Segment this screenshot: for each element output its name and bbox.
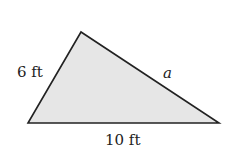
triangle-diagram: 6 ft a 10 ft [0, 0, 226, 159]
bottom-side-label: 10 ft [105, 131, 140, 149]
left-side-label: 6 ft [17, 63, 43, 81]
right-side-label: a [163, 64, 172, 82]
triangle-shape [28, 32, 219, 123]
